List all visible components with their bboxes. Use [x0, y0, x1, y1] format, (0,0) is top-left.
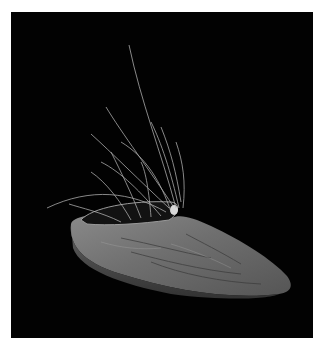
shoe-sculpture-illustration: [11, 12, 313, 338]
artwork-photo: [11, 12, 313, 338]
